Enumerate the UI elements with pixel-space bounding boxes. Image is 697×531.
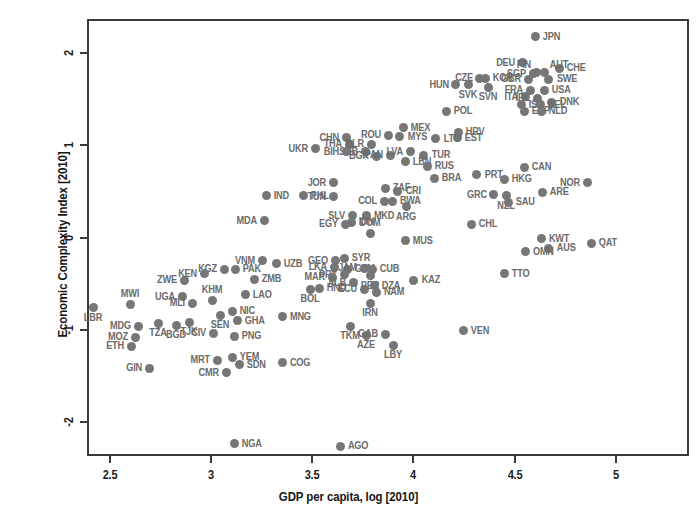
data-point-label: UZB [284,259,302,269]
data-point[interactable] [145,364,154,373]
data-point[interactable] [430,174,439,183]
data-point[interactable] [347,218,356,227]
data-point-label: CMR [199,368,219,378]
data-point-label: HND [327,283,346,293]
data-point[interactable] [222,368,231,377]
data-point[interactable] [442,107,451,116]
data-point-label: COG [290,358,310,368]
data-point[interactable] [520,107,529,116]
data-point-label: TTO [512,269,530,279]
data-point-label: MUS [413,236,433,246]
data-point[interactable] [127,342,136,351]
data-point[interactable] [544,75,553,84]
data-point[interactable] [126,300,135,309]
data-point[interactable] [220,265,229,274]
data-point[interactable] [524,75,533,84]
data-point-label: ETH [106,341,124,351]
data-point[interactable] [409,276,418,285]
data-point-label: BRA [442,173,461,183]
data-point[interactable] [131,333,140,342]
data-point-label: MLI [170,298,185,308]
data-point-label: SVK [459,90,477,100]
data-point-label: MDG [110,321,131,331]
data-point[interactable] [228,307,237,316]
x-tick-label: 4.5 [507,467,522,482]
data-point[interactable] [538,188,547,197]
data-point[interactable] [395,132,404,141]
data-point[interactable] [500,175,509,184]
data-point[interactable] [278,358,287,367]
data-point-label: KAZ [421,275,439,285]
data-point-label: POL [454,106,472,116]
data-point-label: TUR [431,150,449,160]
data-point[interactable] [537,234,546,243]
data-point-label: BIH [324,147,339,157]
data-point[interactable] [230,332,239,341]
data-point[interactable] [231,265,240,274]
data-point-label: DOM [360,218,381,228]
data-point-label: DEU [497,58,516,68]
data-point[interactable] [381,330,390,339]
data-point[interactable] [278,312,287,321]
y-axis-label: Economic Complexity Index [2010] [55,113,70,377]
data-point-label: SWE [556,74,576,84]
data-point[interactable] [537,107,546,116]
data-point[interactable] [208,296,217,305]
data-point[interactable] [241,290,250,299]
data-point[interactable] [311,144,320,153]
data-point[interactable] [200,269,209,278]
data-point[interactable] [504,198,513,207]
data-point[interactable] [587,239,596,248]
x-tick-label: 3.5 [305,467,320,482]
x-tick [311,456,313,463]
data-point[interactable] [372,288,381,297]
y-tick-label: 2 [61,45,76,62]
data-point-label: ZMB [262,274,281,284]
x-tick [514,456,516,463]
data-point[interactable] [481,74,490,83]
x-tick [412,456,414,463]
data-point-label: BOL [301,294,320,304]
data-point[interactable] [250,275,259,284]
data-point-label: UKR [289,144,308,154]
data-point[interactable] [188,299,197,308]
data-point[interactable] [329,178,338,187]
data-point-label: MNG [290,312,311,322]
data-point[interactable] [583,178,592,187]
data-point-label: NGA [242,439,262,449]
data-point-label: AGO [348,441,368,451]
data-point-label: FIN [517,60,531,70]
data-point[interactable] [388,197,397,206]
data-point[interactable] [336,442,345,451]
x-tick [615,456,617,463]
data-point-label: EGY [319,219,338,229]
data-point[interactable] [467,220,476,229]
data-point[interactable] [381,184,390,193]
data-point-label: JOR [308,178,326,188]
data-point-label: QAT [599,238,617,248]
data-point-label: AZE [357,340,375,350]
data-point[interactable] [360,285,369,294]
data-point[interactable] [315,284,324,293]
y-tick [80,421,87,423]
data-point[interactable] [366,229,375,238]
data-point[interactable] [209,329,218,338]
data-point-label: MAR [305,272,325,282]
x-tick-label: 2.5 [103,467,118,482]
data-point-label: CHE [567,63,586,73]
data-point-label: PAN [365,150,383,160]
data-point[interactable] [423,162,432,171]
data-point-label: LAO [253,290,272,300]
data-point[interactable] [213,356,222,365]
data-point-label: NLD [549,106,567,116]
data-point-label: SDN [247,360,266,370]
data-point[interactable] [520,163,529,172]
data-point-label: MYS [407,132,426,142]
y-tick [80,237,87,239]
data-point-label: SAU [516,197,535,207]
data-point[interactable] [531,32,540,41]
x-tick-label: 5 [613,467,619,482]
data-point[interactable] [134,322,143,331]
data-point[interactable] [540,86,549,95]
data-point[interactable] [384,131,393,140]
